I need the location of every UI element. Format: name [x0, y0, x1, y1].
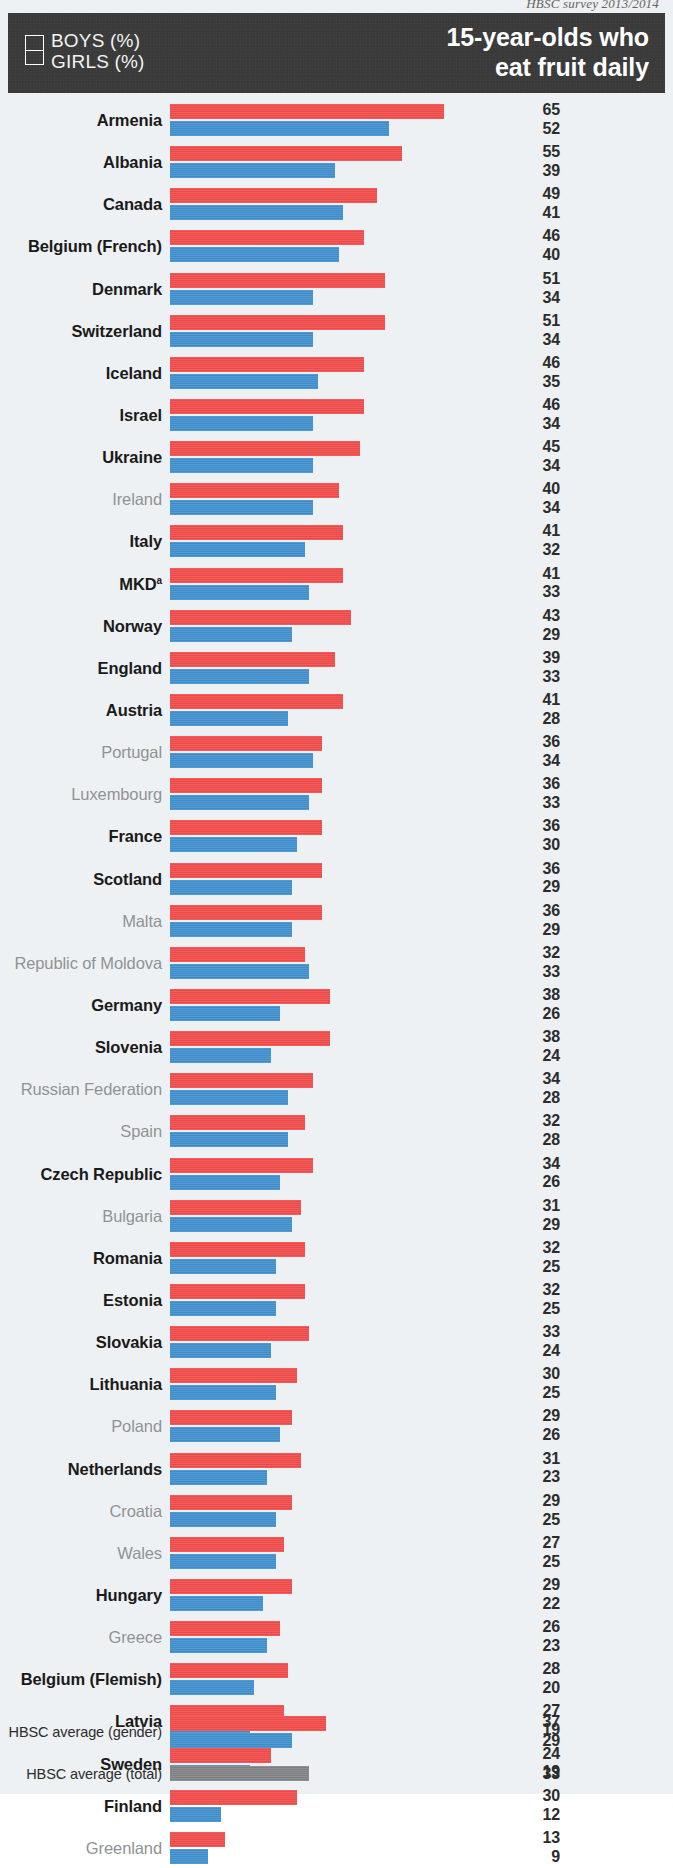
row-bar-boys — [170, 1301, 276, 1316]
row-values: 2925 — [500, 1492, 560, 1530]
row-value-boys: 23 — [500, 1469, 560, 1488]
row-values: 2623 — [500, 1618, 560, 1656]
row-bar-girls — [170, 1368, 297, 1383]
row-bar-girls — [170, 1200, 301, 1215]
row-bar-boys — [170, 1680, 254, 1695]
row-bar-boys — [170, 753, 313, 768]
chart-row: Poland2926 — [0, 1405, 673, 1447]
row-values: 5134 — [500, 270, 560, 308]
row-bar-boys — [170, 1849, 208, 1864]
row-country-label: Malta — [0, 912, 162, 929]
row-bars — [170, 778, 500, 810]
row-country-label: Switzerland — [0, 323, 162, 340]
row-country-label: Netherlands — [0, 1460, 162, 1477]
legend-label-group: BOYS (%) GIRLS (%) — [51, 31, 145, 72]
row-values: 3025 — [500, 1365, 560, 1403]
chart-row: England3933 — [0, 647, 673, 689]
row-value-girls: 49 — [500, 185, 560, 204]
row-value-girls: 43 — [500, 607, 560, 626]
row-values: 139 — [500, 1829, 560, 1867]
row-value-boys: 29 — [500, 626, 560, 645]
row-bar-girls — [170, 441, 360, 456]
row-bar-boys — [170, 290, 313, 305]
row-bars — [170, 357, 500, 389]
row-country-label: Lithuania — [0, 1376, 162, 1393]
row-bars — [170, 230, 500, 262]
row-bars — [170, 694, 500, 726]
row-value-boys: 33 — [500, 668, 560, 687]
row-bar-boys — [170, 880, 292, 895]
row-bar-girls — [170, 1284, 305, 1299]
row-bars — [170, 1579, 500, 1611]
chart-header-bar: BOYS (%) GIRLS (%) 15-year-olds who eat … — [8, 13, 665, 93]
row-values: 3634 — [500, 733, 560, 771]
average-total-value: 33 — [500, 1765, 560, 1784]
row-value-girls: 26 — [500, 1618, 560, 1637]
row-bar-girls — [170, 1579, 292, 1594]
row-bar-boys — [170, 1217, 292, 1232]
chart-row: Russian Federation3428 — [0, 1068, 673, 1110]
row-value-girls: 38 — [500, 986, 560, 1005]
legend-label-boys: BOYS (%) — [51, 31, 145, 52]
row-bar-boys — [170, 627, 292, 642]
row-bars — [170, 441, 500, 473]
row-value-girls: 36 — [500, 860, 560, 879]
row-values: 3824 — [500, 1028, 560, 1066]
row-bar-boys — [170, 669, 309, 684]
chart-row: Denmark5134 — [0, 268, 673, 310]
row-country-label: Canada — [0, 196, 162, 213]
chart-row: Spain3228 — [0, 1110, 673, 1152]
row-bar-girls — [170, 736, 322, 751]
row-bars — [170, 315, 500, 347]
row-country-label: Albania — [0, 154, 162, 171]
row-country-label: Scotland — [0, 870, 162, 887]
chart-row: Scotland3629 — [0, 858, 673, 900]
average-total-bar — [170, 1766, 309, 1781]
row-bar-boys — [170, 1090, 288, 1105]
row-value-girls: 36 — [500, 902, 560, 921]
row-bar-boys — [170, 964, 309, 979]
row-value-girls: 32 — [500, 1113, 560, 1132]
row-values: 3630 — [500, 818, 560, 856]
row-values: 4132 — [500, 523, 560, 561]
row-bar-boys — [170, 1385, 276, 1400]
row-value-boys: 24 — [500, 1047, 560, 1066]
row-value-girls: 30 — [500, 1365, 560, 1384]
row-bar-girls — [170, 1031, 330, 1046]
row-bar-boys — [170, 542, 305, 557]
row-bar-girls — [170, 610, 351, 625]
row-bar-girls — [170, 905, 322, 920]
row-value-boys: 26 — [500, 1426, 560, 1445]
row-bars — [170, 1031, 500, 1063]
row-bars — [170, 820, 500, 852]
row-value-boys: 34 — [500, 752, 560, 771]
row-bar-girls — [170, 188, 377, 203]
row-bars — [170, 947, 500, 979]
row-value-girls: 32 — [500, 944, 560, 963]
row-country-label: Wales — [0, 1545, 162, 1562]
row-bar-girls — [170, 820, 322, 835]
chart-row: MKDa4133 — [0, 563, 673, 605]
row-value-girls: 46 — [500, 396, 560, 415]
row-values: 4133 — [500, 565, 560, 603]
row-country-label: England — [0, 660, 162, 677]
chart-row: Belgium (Flemish)2820 — [0, 1658, 673, 1700]
row-bar-boys — [170, 837, 297, 852]
row-country-label: Spain — [0, 1123, 162, 1140]
row-value-girls: 41 — [500, 523, 560, 542]
row-value-girls: 34 — [500, 1070, 560, 1089]
average-row-gender: HBSC average (gender) 37 29 — [0, 1711, 673, 1753]
chart-row: Czech Republic3426 — [0, 1153, 673, 1195]
row-bars — [170, 1410, 500, 1442]
chart-row: Slovakia3324 — [0, 1321, 673, 1363]
legend-label-girls: GIRLS (%) — [51, 52, 145, 73]
row-bar-boys — [170, 1132, 288, 1147]
row-value-girls: 29 — [500, 1576, 560, 1595]
chart-row: Germany3826 — [0, 984, 673, 1026]
row-bar-boys — [170, 1048, 271, 1063]
row-bar-girls — [170, 146, 402, 161]
row-country-label: Bulgaria — [0, 1207, 162, 1224]
bar-chart-rows: Armenia6552Albania5539Canada4941Belgium … — [0, 99, 673, 1868]
row-bars — [170, 1073, 500, 1105]
chart-row: Albania5539 — [0, 141, 673, 183]
